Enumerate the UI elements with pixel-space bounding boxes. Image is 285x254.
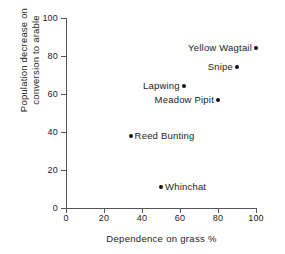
y-tick-label: 20 — [32, 166, 58, 175]
y-tick-label-text: 0 — [32, 204, 58, 213]
y-tick-label-text: 20 — [32, 166, 58, 175]
data-point — [216, 98, 220, 102]
y-tick-label: 0 — [32, 204, 58, 213]
y-axis-line — [66, 18, 67, 209]
data-point-label: Lapwing — [143, 81, 180, 91]
data-point — [235, 65, 239, 69]
x-tick-label: 80 — [203, 213, 233, 223]
y-axis-title-line-2: conversion to arable — [30, 0, 42, 155]
x-axis-line — [66, 208, 257, 209]
x-axis-title: Dependence on grass % — [66, 233, 257, 244]
y-tick-mark — [61, 170, 66, 171]
y-axis-title: Population decrease on conversion to ara… — [18, 0, 42, 155]
data-point — [254, 46, 258, 50]
x-tick-label: 20 — [89, 213, 119, 223]
scatter-chart: 020406080100 020406080100 Yellow Wagtail… — [0, 0, 285, 254]
x-tick-label: 100 — [241, 213, 271, 223]
data-point — [159, 185, 163, 189]
x-tick-label: 40 — [127, 213, 157, 223]
y-axis-title-line-1: Population decrease on — [18, 0, 30, 155]
y-tick-mark — [61, 94, 66, 95]
data-point-label: Snipe — [208, 62, 233, 72]
y-tick-mark — [61, 18, 66, 19]
x-tick-label: 60 — [165, 213, 195, 223]
data-point — [129, 134, 133, 138]
y-tick-mark — [61, 56, 66, 57]
data-point-label: Yellow Wagtail — [188, 43, 252, 53]
data-point-label: Whinchat — [165, 182, 206, 192]
y-tick-mark — [61, 132, 66, 133]
data-point-label: Reed Bunting — [135, 131, 195, 141]
x-tick-label: 0 — [51, 213, 81, 223]
data-point-label: Meadow Pipit — [155, 95, 214, 105]
data-point — [182, 84, 186, 88]
